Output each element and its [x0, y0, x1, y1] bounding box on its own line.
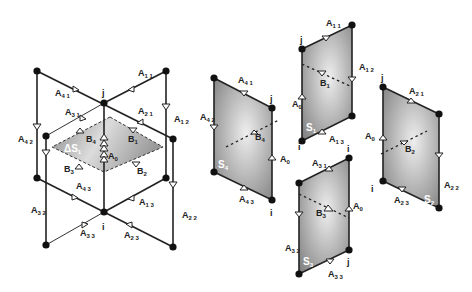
- label-i: i: [102, 222, 105, 232]
- label-a31: A3 1: [312, 158, 328, 169]
- label-a13: A1 3: [329, 134, 345, 145]
- label-j: j: [299, 35, 303, 45]
- panel-s2: A2 1 j A0 B2 i A2 2 A2 3 S2: [365, 73, 460, 212]
- label-a43: A4 3: [239, 194, 255, 205]
- label-a41: A4 1: [238, 75, 254, 86]
- panel-s1: A1 1 j A1 2 B1 A0 S1 A1 3 i: [292, 18, 375, 152]
- label-i: i: [270, 208, 273, 218]
- node: [33, 174, 40, 181]
- node-j: [100, 99, 107, 106]
- label-a12: A1 2: [359, 62, 375, 73]
- label-a33: A3 3: [328, 269, 344, 280]
- label-a22: A2 2: [182, 210, 198, 221]
- label-j: j: [380, 73, 384, 83]
- label-a0: A0: [353, 201, 364, 212]
- panel-s3: A3 1 i A0 B3 A3 2 S3 j A3 3: [285, 144, 364, 280]
- label-a41: A4 1: [55, 88, 71, 99]
- label-a21: A2 1: [138, 106, 154, 117]
- direction-arrow-icons: [33, 86, 177, 228]
- label-a22: A2 2: [444, 180, 460, 191]
- node: [162, 174, 169, 181]
- node: [42, 132, 49, 139]
- label-a23: A2 3: [394, 195, 410, 206]
- label-a11: A1 1: [326, 18, 342, 29]
- diagram-canvas: A4 1 A1 1 j A3 1 A2 1 A1 2 A4 2 B4 B1 ΔS…: [0, 0, 472, 292]
- label-j: j: [101, 88, 105, 98]
- label-a23: A2 3: [124, 230, 140, 241]
- label-a0: A0: [365, 131, 376, 142]
- label-a0: A0: [292, 99, 303, 110]
- label-a11: A1 1: [138, 68, 154, 79]
- node: [42, 241, 49, 248]
- label-a31: A3 1: [65, 107, 81, 118]
- node: [169, 243, 176, 250]
- label-a42: A4 2: [18, 134, 34, 145]
- label-a12: A1 2: [174, 114, 190, 125]
- label-i: i: [298, 142, 301, 152]
- node: [33, 67, 40, 74]
- label-a32: A3 2: [285, 243, 301, 254]
- panel-s4: A4 1 j A4 2 B4 A0 S4 A4 3 i: [200, 74, 291, 218]
- label-b3: B3: [64, 164, 75, 175]
- label-j: j: [269, 94, 273, 104]
- left-mesh-panel: A4 1 A1 1 j A3 1 A2 1 A1 2 A4 2 B4 B1 ΔS…: [18, 67, 198, 250]
- label-a43: A4 3: [76, 181, 92, 192]
- label-i: i: [347, 144, 350, 154]
- node-i: [100, 208, 107, 215]
- label-a0: A0: [280, 154, 291, 165]
- label-a13: A1 3: [139, 197, 155, 208]
- node: [162, 67, 169, 74]
- label-b2: B2: [137, 166, 148, 177]
- node: [169, 135, 176, 142]
- label-a33: A3 3: [80, 228, 96, 239]
- label-i: i: [371, 184, 374, 194]
- label-a21: A2 1: [409, 86, 425, 97]
- label-a42: A4 2: [200, 112, 216, 123]
- label-j: j: [346, 257, 350, 267]
- label-a32: A3 2: [31, 205, 47, 216]
